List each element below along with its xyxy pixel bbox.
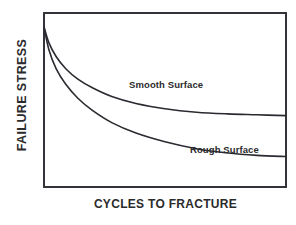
plot-canvas [0, 0, 296, 225]
chart-figure: FAILURE STRESS CYCLES TO FRACTURE Smooth… [0, 0, 296, 225]
series-label-smooth-surface: Smooth Surface [129, 79, 203, 90]
series-label-rough-surface: Rough Surface [190, 144, 259, 155]
x-axis-title: CYCLES TO FRACTURE [44, 197, 287, 211]
